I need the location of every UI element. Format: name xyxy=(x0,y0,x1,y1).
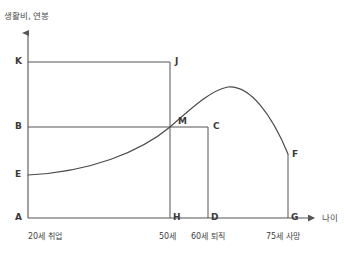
x-tick-label-20: 20세 취업 xyxy=(28,233,62,241)
point-label-e: E xyxy=(15,170,21,179)
point-label-c: C xyxy=(213,122,220,131)
point-label-k: K xyxy=(15,57,22,66)
x-tick-label-50: 50세 xyxy=(159,233,176,241)
x-tick-label-60: 60세 퇴직 xyxy=(191,233,225,241)
x-axis-title: 나이 xyxy=(322,214,338,223)
point-label-f: F xyxy=(292,150,298,159)
point-label-g: G xyxy=(291,213,298,222)
chart-canvas xyxy=(0,0,344,263)
point-label-d: D xyxy=(211,213,218,222)
x-tick-label-75: 75세 사망 xyxy=(266,233,300,241)
point-label-b: B xyxy=(15,122,22,131)
y-axis-title: 생활비, 연봉 xyxy=(4,12,49,21)
point-label-h: H xyxy=(173,213,181,222)
point-label-m: M xyxy=(178,117,187,126)
income-curve xyxy=(28,87,288,175)
point-label-a: A xyxy=(15,213,22,222)
life-cycle-income-chart: 생활비, 연봉 나이 K B E A J M C F H D G 20세 취업 … xyxy=(0,0,344,263)
point-label-j: J xyxy=(175,57,178,66)
